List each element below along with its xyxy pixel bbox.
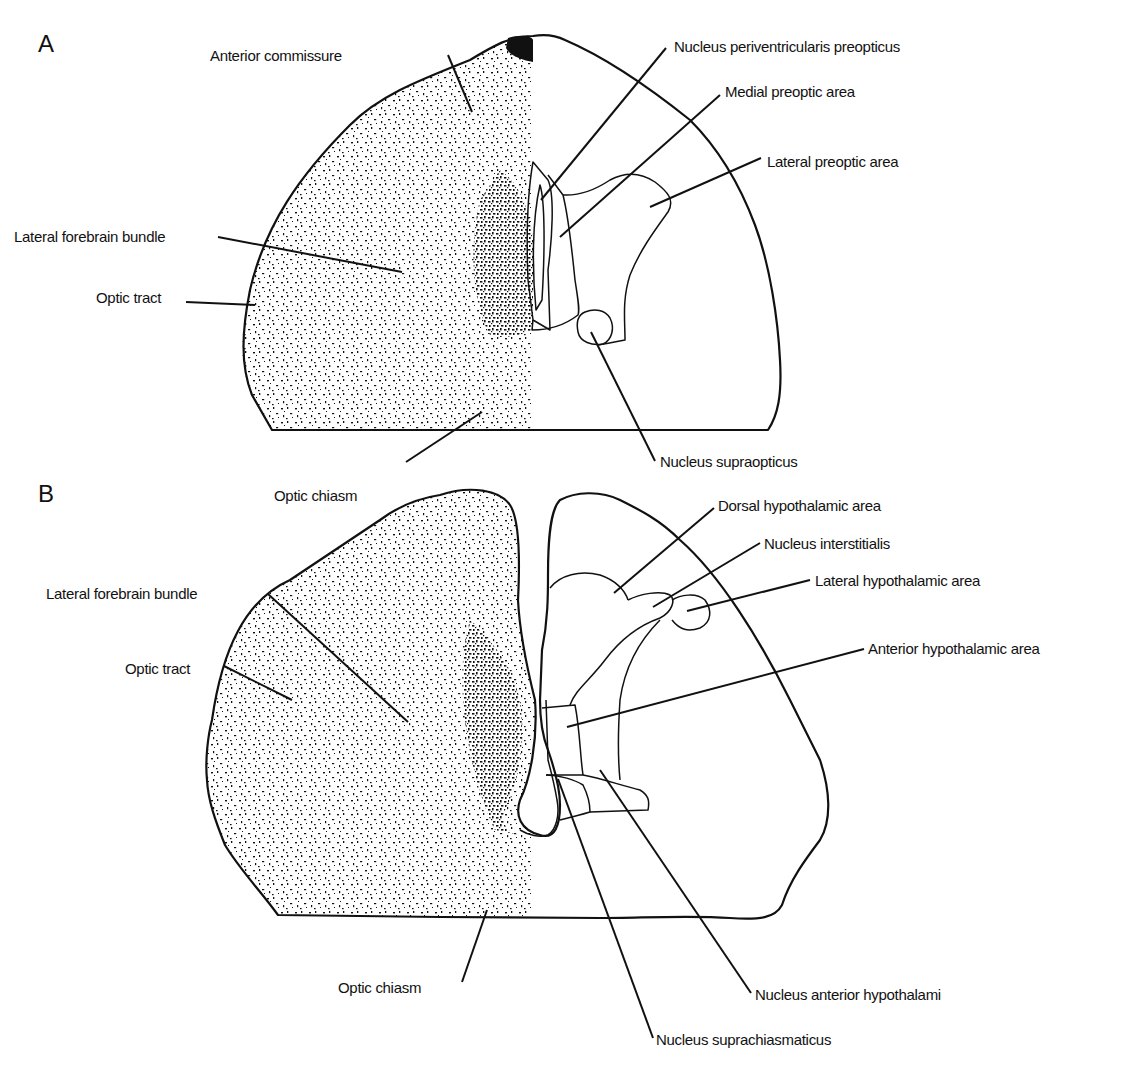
label-nucleus-suprachiasmaticus: Nucleus suprachiasmaticus: [656, 1031, 831, 1048]
label-medial-preoptic-area: Medial preoptic area: [725, 83, 856, 100]
label-lateral-forebrain-bundle-b: Lateral forebrain bundle: [46, 585, 197, 602]
label-dorsal-hypothalamic-area: Dorsal hypothalamic area: [718, 497, 882, 514]
panel-label-b: B: [38, 480, 54, 507]
label-optic-chiasm-a: Optic chiasm: [274, 487, 357, 504]
label-optic-chiasm-b: Optic chiasm: [338, 979, 421, 996]
leader-nucleus-supraopticus: [591, 332, 655, 461]
label-nucleus-interstitialis: Nucleus interstitialis: [764, 535, 890, 552]
panel-b-dorsal-hypothalamic-area: [550, 573, 628, 600]
leader-nucleus-suprachiasmaticus: [558, 779, 653, 1038]
label-lateral-forebrain-bundle-a: Lateral forebrain bundle: [14, 228, 165, 245]
panel-b-anterior-hypothalamic-area: [542, 705, 583, 775]
label-anterior-hypothalamic-area: Anterior hypothalamic area: [868, 640, 1040, 657]
label-optic-tract-a: Optic tract: [96, 289, 162, 306]
leader-medial-preoptic: [560, 95, 720, 237]
panel-b-lateral-hypothalamic-area: [672, 595, 710, 630]
leader-optic-chiasm-b: [462, 910, 487, 982]
label-lateral-hypothalamic-area: Lateral hypothalamic area: [815, 572, 981, 589]
panel-b: Lateral forebrain bundle Optic tract Opt…: [46, 490, 1040, 1048]
label-nucleus-periventricularis-preopticus: Nucleus periventricularis preopticus: [674, 38, 900, 55]
brain-section-diagram: A B Anterior commissure Lateral forebrai…: [0, 0, 1122, 1071]
panel-label-a: A: [38, 30, 54, 57]
panel-a: Anterior commissure Lateral forebrain bu…: [14, 35, 900, 504]
leader-nucleus-anterior-hypothalami: [600, 770, 751, 993]
label-anterior-commissure: Anterior commissure: [210, 47, 342, 64]
label-optic-tract-b: Optic tract: [125, 660, 191, 677]
panel-a-ventricle-inner: [533, 185, 544, 310]
leader-lateral-hypothalamic: [687, 580, 810, 611]
panel-a-medial-preoptic-area: [532, 175, 579, 330]
leader-optic-tract-a: [186, 302, 255, 305]
panel-a-lateral-preoptic-area: [563, 174, 671, 345]
panel-b-nucleus-suprachiasmaticus: [546, 775, 590, 820]
leader-anterior-hypothalamic: [567, 649, 864, 727]
label-lateral-preoptic-area: Lateral preoptic area: [767, 153, 899, 170]
panel-b-lateral-hypothalamic-arc: [619, 620, 661, 780]
panel-b-nucleus-interstitialis: [570, 593, 673, 705]
label-nucleus-anterior-hypothalami: Nucleus anterior hypothalami: [755, 986, 941, 1003]
label-nucleus-supraopticus: Nucleus supraopticus: [660, 453, 797, 470]
